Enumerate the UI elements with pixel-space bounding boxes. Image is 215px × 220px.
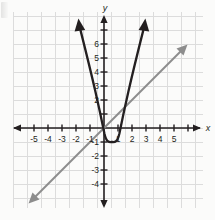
page-edge-artifact (1, 2, 8, 18)
x-tick-label: -3 (58, 134, 66, 144)
y-axis-label: y (102, 3, 108, 13)
canvas-background (0, 0, 215, 220)
y-tick-label: 6 (94, 39, 99, 49)
x-tick-label: -2 (72, 134, 80, 144)
x-tick-label: 5 (172, 134, 177, 144)
y-tick-label: -4 (91, 179, 99, 189)
x-tick-label: -5 (30, 134, 38, 144)
y-tick-label: -1 (91, 137, 99, 147)
y-tick-label: 3 (94, 81, 99, 91)
x-tick-label: 2 (130, 134, 135, 144)
x-tick-label: 4 (158, 134, 163, 144)
x-tick-label: 1 (116, 134, 121, 144)
graph-canvas: -5 -4 -3 -2 -1 1 2 3 4 5 -4 -3 -2 -1 2 3… (0, 0, 215, 220)
y-tick-label: 2 (94, 95, 99, 105)
y-tick-label: 4 (94, 67, 99, 77)
y-tick-label: -3 (91, 165, 99, 175)
x-tick-label: 3 (144, 134, 149, 144)
y-tick-label: 5 (94, 53, 99, 63)
x-tick-label: -4 (44, 134, 52, 144)
y-tick-label: -2 (91, 151, 99, 161)
figure-coordinate-plane: -5 -4 -3 -2 -1 1 2 3 4 5 -4 -3 -2 -1 2 3… (0, 0, 215, 220)
x-axis-label: x (205, 123, 211, 133)
